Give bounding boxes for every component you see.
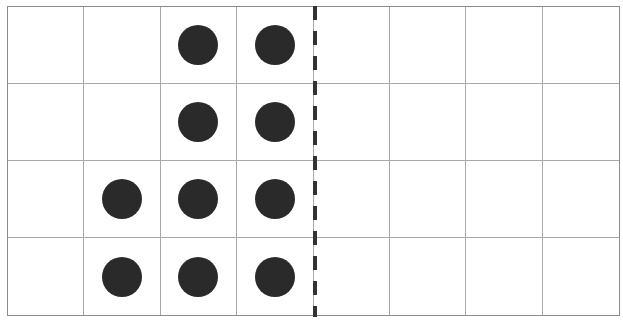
grid-cell [314, 161, 390, 238]
grid-cell [84, 161, 160, 238]
dot-icon [255, 257, 295, 297]
grid-cell [161, 7, 237, 84]
grid-cell [543, 238, 619, 315]
grid-cell [390, 7, 466, 84]
grid-cell [390, 161, 466, 238]
grid-cell [84, 7, 160, 84]
grid-cell [466, 238, 542, 315]
dot-icon [178, 25, 218, 65]
grid-cell [466, 7, 542, 84]
grid-cell [84, 84, 160, 161]
grid-cell [314, 238, 390, 315]
grid-cell [466, 161, 542, 238]
dot-icon [102, 179, 142, 219]
grid-cell [543, 84, 619, 161]
grid-cell [8, 238, 84, 315]
grid-cell [161, 84, 237, 161]
dot-icon [178, 102, 218, 142]
grid-cell [84, 238, 160, 315]
dot-icon [178, 179, 218, 219]
grid-cell [237, 84, 313, 161]
grid-cell [543, 7, 619, 84]
grid-cell [466, 84, 542, 161]
grid-cell [161, 161, 237, 238]
grid-cell [390, 84, 466, 161]
grid-cell [237, 238, 313, 315]
dot-icon [255, 179, 295, 219]
dot-icon [255, 25, 295, 65]
dot-icon [178, 257, 218, 297]
grid-cell [8, 84, 84, 161]
grid-cell [543, 161, 619, 238]
grid-cell [314, 84, 390, 161]
grid-cell [8, 161, 84, 238]
dashed-divider-line [313, 6, 317, 317]
grid-cell [390, 238, 466, 315]
grid-cell [8, 7, 84, 84]
grid-cell [237, 7, 313, 84]
dot-icon [102, 257, 142, 297]
grid-cell [314, 7, 390, 84]
grid-cell [161, 238, 237, 315]
grid-cell [237, 161, 313, 238]
dot-icon [255, 102, 295, 142]
